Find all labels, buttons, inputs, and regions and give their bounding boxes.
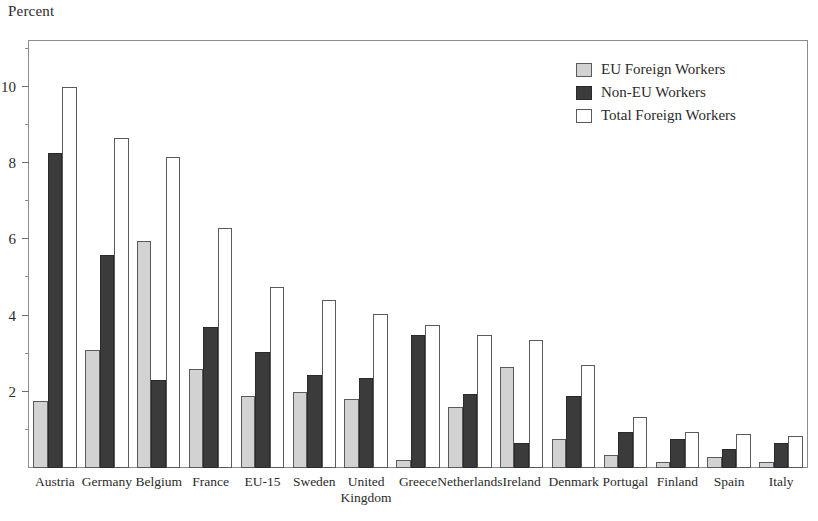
- bar: [218, 228, 233, 468]
- bar: [477, 335, 492, 468]
- y-axis-tick-major: 8: [22, 162, 29, 163]
- bar: [788, 436, 803, 468]
- legend-swatch-total: [576, 109, 592, 123]
- chart-legend: EU Foreign WorkersNon-EU WorkersTotal Fo…: [576, 58, 736, 127]
- bar: [448, 407, 463, 468]
- bar: [425, 325, 440, 468]
- bar: [151, 380, 166, 468]
- y-axis-tick-label: 2: [9, 383, 17, 400]
- bar: [552, 439, 567, 468]
- bar: [373, 314, 388, 468]
- bar: [411, 335, 426, 468]
- bar: [48, 153, 63, 468]
- y-axis-tick-major: 2: [22, 391, 29, 392]
- bar: [344, 399, 359, 468]
- legend-label: EU Foreign Workers: [601, 61, 725, 78]
- bar: [189, 369, 204, 468]
- bar: [241, 396, 256, 468]
- bar: [396, 460, 411, 468]
- x-axis-label-line: Kingdom: [322, 490, 410, 506]
- bar: [604, 455, 619, 468]
- x-axis-label-line: Italy: [769, 474, 794, 489]
- bar: [581, 365, 596, 468]
- bar-group: [137, 41, 181, 468]
- bar-group: [241, 41, 285, 468]
- bar: [293, 392, 308, 468]
- y-axis-tick-label: 6: [9, 231, 17, 248]
- bar-group: [33, 41, 77, 468]
- bar-group: [448, 41, 492, 468]
- x-axis-label: Italy: [737, 474, 818, 490]
- bar: [255, 352, 270, 468]
- bar: [774, 443, 789, 468]
- bar-group: [189, 41, 233, 468]
- y-axis-tick-label: 4: [9, 307, 17, 324]
- legend-swatch-noneu: [576, 86, 592, 100]
- bar: [500, 367, 515, 468]
- legend-item: Total Foreign Workers: [576, 104, 736, 127]
- legend-item: Non-EU Workers: [576, 81, 736, 104]
- y-axis-title: Percent: [8, 3, 54, 20]
- y-axis-tick-minor: [25, 48, 29, 49]
- bar: [736, 434, 751, 468]
- bar: [722, 449, 737, 468]
- bar: [203, 327, 218, 468]
- bar: [322, 300, 337, 468]
- y-axis-tick-label: 8: [9, 155, 17, 172]
- y-axis-tick-minor: [25, 429, 29, 430]
- bar: [514, 443, 529, 468]
- bar-chart-figure: Percent 246810 AustriaGermanyBelgiumFran…: [0, 0, 818, 521]
- bar: [633, 417, 648, 468]
- bar: [656, 462, 671, 468]
- y-axis-tick-major: 6: [22, 238, 29, 239]
- bar: [359, 378, 374, 468]
- bar-group: [396, 41, 440, 468]
- y-axis-tick-minor: [25, 353, 29, 354]
- bar: [166, 157, 181, 468]
- bar-group: [85, 41, 129, 468]
- y-axis-tick-minor: [25, 124, 29, 125]
- bar: [529, 340, 544, 468]
- legend-label: Total Foreign Workers: [601, 107, 736, 124]
- bar-group: [759, 41, 803, 468]
- legend-item: EU Foreign Workers: [576, 58, 736, 81]
- bar-group: [293, 41, 337, 468]
- bar: [759, 462, 774, 468]
- bar: [670, 439, 685, 468]
- bar: [685, 432, 700, 468]
- y-axis-tick-label: 10: [1, 78, 16, 95]
- y-axis-tick-major: 10: [22, 86, 29, 87]
- bar: [114, 138, 129, 468]
- bar: [463, 394, 478, 468]
- y-axis-tick-major: 4: [22, 315, 29, 316]
- bar: [566, 396, 581, 468]
- y-axis-tick-minor: [25, 200, 29, 201]
- bar: [707, 457, 722, 468]
- bar: [270, 287, 285, 468]
- bar: [137, 241, 152, 468]
- bar-group: [344, 41, 388, 468]
- bar-group: [500, 41, 544, 468]
- bar: [33, 401, 48, 468]
- y-axis-tick-minor: [25, 276, 29, 277]
- bar: [618, 432, 633, 468]
- bar: [62, 87, 77, 468]
- legend-swatch-eu: [576, 63, 592, 77]
- bar: [307, 375, 322, 468]
- bar: [100, 255, 115, 469]
- bar: [85, 350, 100, 468]
- legend-label: Non-EU Workers: [601, 84, 706, 101]
